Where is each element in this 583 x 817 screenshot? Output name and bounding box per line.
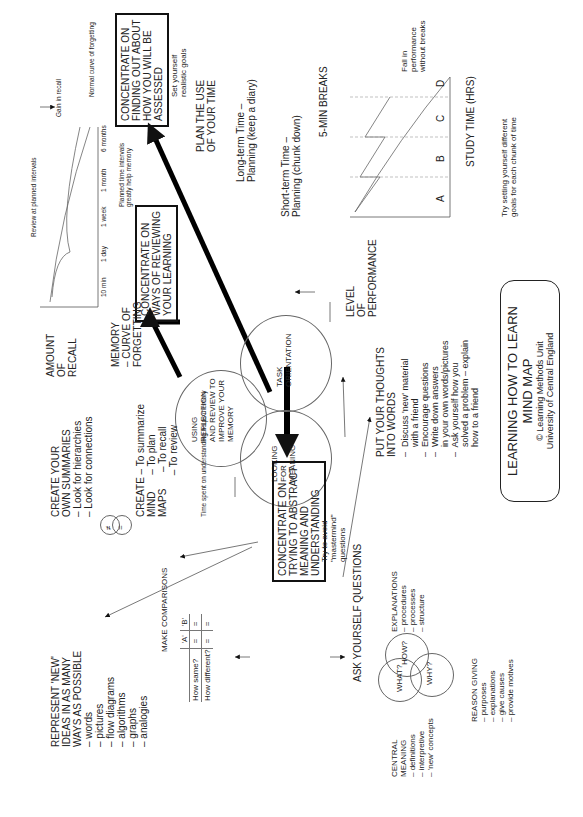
mind-map-canvas: LEARNING HOW TO LEARN MIND MAP © Learnin…: [0, 0, 583, 817]
chunk-b: B: [435, 155, 446, 162]
thoughts-item: – Encourage questions: [420, 340, 430, 457]
tick-6months: 6 months: [100, 125, 107, 152]
level-label: LEVEL OF PERFORMANCE: [345, 239, 378, 317]
mastermind-note: Try to avoid "mastermind" questions: [320, 515, 347, 562]
review-intervals-label: Review at planned intervals: [30, 158, 37, 238]
thoughts-heading: PUT YOUR THOUGHTS INTO WORDS: [375, 347, 397, 457]
task-label: TASK ORIENTATION: [275, 334, 293, 387]
mindmaps-list: CREATE – To summarize MIND – To plan MAP…: [135, 404, 179, 517]
ask-questions: ASK YOURSELF QUESTIONS: [352, 544, 363, 682]
chunk-d: D: [435, 80, 446, 87]
explanations-list: EXPLANATIONS – procedures – processes – …: [390, 571, 426, 632]
tick-1month: 1 month: [100, 169, 107, 193]
normal-curve-label: Normal curve of forgetting: [88, 22, 95, 97]
represent-list: REPRESENT 'NEW' IDEAS IN AS MANY WAYS AS…: [50, 651, 149, 747]
assessed-box: CONCENTRATE ON FINDING OUT ABOUT HOW YOU…: [115, 14, 169, 128]
tick-1week: 1 week: [100, 206, 107, 227]
how-label: HOW?: [400, 641, 409, 665]
title-panel: LEARNING HOW TO LEARN MIND MAP © Learnin…: [500, 280, 560, 502]
comparisons-table: 'A' 'B' How same? = = How different? = =: [180, 614, 213, 702]
chunk-goals-note: Try setting yourself different goals for…: [500, 117, 518, 217]
comparisons-label: MAKE COMPARISONS: [160, 568, 169, 652]
long-term-planning: Long-term Time – Planning (keep a diary): [235, 79, 257, 182]
planned-note: Planned time intervals greatly help memo…: [118, 143, 132, 207]
tick-10min: 10 min: [100, 277, 107, 297]
time-spent-note: Time spent on understanding helps memory: [200, 390, 207, 517]
breaks-label: 5-MIN BREAKS: [318, 66, 329, 137]
chunk-a: A: [435, 195, 446, 202]
gain-label: Gain in recall: [55, 79, 62, 117]
reason-giving-list: REASON GIVING – purposes – explanations …: [470, 658, 515, 722]
why-label: WHY?: [425, 662, 434, 685]
thoughts-item: – Ask yourself how you solved a problem …: [450, 340, 480, 457]
chunk-c: C: [435, 115, 446, 122]
fall-note: Fall in performance without breaks: [400, 20, 427, 72]
thoughts-item: – Write down answers in your own words/p…: [430, 340, 450, 457]
study-time-label: STUDY TIME (HRS): [465, 76, 476, 167]
central-meaning-list: CENTRAL MEANING – definitions – interpre…: [390, 718, 435, 777]
thoughts-list: – Discuss 'new' material with a friend –…: [400, 340, 480, 457]
amount-recall-label: AMOUNT OF RECALL: [45, 334, 78, 377]
plan-time: PLAN THE USE OF YOUR TIME: [195, 80, 217, 152]
map-title: LEARNING HOW TO LEARN MIND MAP: [505, 291, 535, 491]
tick-1day: 1 day: [100, 246, 107, 262]
reflection-label: USING REFLECTION AND REVIEW TO IMPROVE Y…: [190, 378, 235, 442]
venn-right-symbol: =: [116, 525, 125, 530]
what-label: WHAT?: [395, 665, 404, 692]
curve-label: MEMORY – CURVE OF FORGETTING: [110, 301, 143, 367]
credit-line-1: © Learning Methods Unit: [535, 291, 545, 491]
thoughts-item: – Discuss 'new' material with a friend: [400, 340, 420, 457]
short-term-planning: Short-term Time – Planning (chunk down): [280, 115, 302, 217]
credit-line-2: University of Central England: [545, 291, 555, 491]
abstract-box: CONCENTRATE ON TRYING TO ABSTRACT MEANIN…: [272, 461, 326, 582]
summaries-list: CREATE YOUR OWN SUMMARIES – Look for hie…: [50, 416, 94, 517]
venn-left-symbol: ≠: [104, 526, 113, 530]
goals-note: Set yourself realistic goals: [170, 49, 188, 97]
